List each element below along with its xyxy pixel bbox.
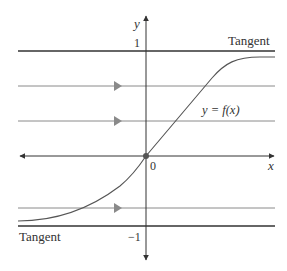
right-arrow-icon (114, 116, 122, 126)
origin-label: 0 (150, 159, 156, 173)
diagram-canvas: y 1 Tangent y = f(x) 0 x Tangent −1 (0, 0, 287, 271)
y-axis-label: y (132, 16, 140, 31)
origin-point (143, 153, 149, 159)
right-arrow-icon (114, 81, 122, 91)
right-arrow-icon (114, 203, 122, 213)
curve-label: y = f(x) (200, 103, 240, 117)
y-tick-bottom-label: −1 (128, 230, 141, 244)
top-tangent-label: Tangent (228, 33, 270, 48)
x-axis-label: x (267, 158, 274, 173)
y-tick-top-label: 1 (134, 36, 140, 50)
bottom-tangent-label: Tangent (19, 229, 61, 244)
